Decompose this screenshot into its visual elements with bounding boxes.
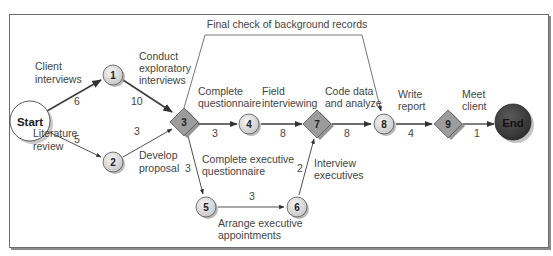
node-start-label: Start bbox=[17, 116, 43, 128]
duration-5-6: 3 bbox=[249, 190, 255, 202]
label-write-report: Write report bbox=[398, 88, 426, 112]
node-2-label: 2 bbox=[110, 157, 116, 168]
node-4-label: 4 bbox=[246, 119, 252, 130]
node-3: 3 bbox=[170, 108, 201, 138]
label-code-data-and-analyze: Code data and analyze bbox=[325, 85, 382, 109]
node-7: 7 bbox=[303, 110, 334, 140]
label-client-interviews: Client interviews bbox=[35, 60, 82, 85]
node-1-label: 1 bbox=[110, 70, 116, 81]
node-4: 4 bbox=[239, 114, 261, 136]
node-5-label: 5 bbox=[203, 202, 209, 213]
duration-3-5: 3 bbox=[185, 162, 191, 174]
node-end: End bbox=[495, 104, 534, 143]
node-5: 5 bbox=[196, 197, 218, 219]
label-field-interviewing: Field interviewing bbox=[262, 85, 318, 109]
node-6: 6 bbox=[287, 197, 309, 219]
duration-6-7: 2 bbox=[297, 162, 303, 174]
duration-7-8: 8 bbox=[344, 127, 350, 139]
pert-network: Start 1 2 3 4 5 6 7 8 bbox=[0, 0, 553, 256]
label-complete-executive-questionnaire: Complete executive questionnaire bbox=[202, 153, 297, 177]
label-conduct-exploratory-interviews: Conduct exploratory interviews bbox=[139, 50, 194, 86]
duration-2-3: 3 bbox=[134, 125, 140, 137]
duration-1-3: 10 bbox=[131, 95, 143, 107]
node-6-label: 6 bbox=[294, 202, 300, 213]
node-7-label: 7 bbox=[314, 119, 320, 130]
label-interview-executives: Interview executives bbox=[314, 157, 364, 181]
node-9: 9 bbox=[434, 110, 465, 140]
duration-3-4: 3 bbox=[212, 127, 218, 139]
node-9-label: 9 bbox=[445, 119, 451, 130]
duration-4-7: 8 bbox=[280, 127, 286, 139]
node-2: 2 bbox=[103, 152, 125, 174]
label-final-check-background-records: Final check of background records bbox=[207, 18, 368, 30]
label-complete-questionnaire: Complete questionnaire bbox=[198, 85, 261, 109]
activity-labels: Client interviews Literature review Cond… bbox=[33, 18, 488, 241]
duration-8-9: 4 bbox=[408, 127, 414, 139]
duration-start-1: 6 bbox=[74, 95, 80, 107]
node-3-label: 3 bbox=[181, 117, 187, 128]
node-1: 1 bbox=[103, 65, 125, 87]
label-meet-client: Meet client bbox=[462, 88, 488, 112]
node-end-label: End bbox=[502, 117, 524, 129]
edges bbox=[47, 35, 494, 207]
label-develop-proposal: Develop proposal bbox=[139, 149, 180, 174]
duration-9-end: 1 bbox=[474, 127, 480, 139]
node-8-label: 8 bbox=[381, 119, 387, 130]
label-arrange-executive-appointments: Arrange executive appointments bbox=[218, 217, 306, 241]
node-8: 8 bbox=[374, 114, 396, 136]
